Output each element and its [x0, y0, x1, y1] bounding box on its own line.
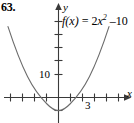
function-lhs: f(x): [62, 14, 79, 28]
function-equation-label: f(x) = 2x2 –10: [62, 15, 128, 27]
y-axis-arrowhead: [55, 3, 62, 10]
x-tick-label-3: 3: [85, 100, 91, 111]
y-tick-label-10: 10: [39, 69, 50, 80]
graph-figure: 63.: [0, 0, 134, 123]
x-axis-label: x: [127, 88, 132, 99]
y-axis-label: y: [63, 2, 68, 13]
constant: 10: [116, 14, 128, 28]
